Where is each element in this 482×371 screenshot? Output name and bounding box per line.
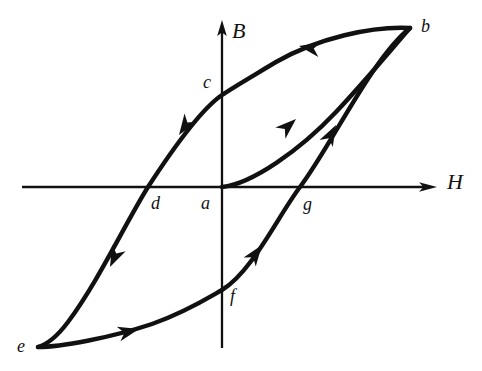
point-label-f: f xyxy=(230,287,235,305)
point-label-e: e xyxy=(17,337,25,355)
hysteresis-plot-svg xyxy=(0,0,482,371)
h-axis-label: H xyxy=(447,171,463,193)
point-label-g: g xyxy=(303,195,312,213)
arrowhead-initial-curve-icon xyxy=(275,113,301,138)
point-label-d: d xyxy=(151,194,160,212)
point-label-c: c xyxy=(203,73,211,91)
point-label-a: a xyxy=(201,194,210,212)
hysteresis-figure: B H a b c d e f g xyxy=(0,0,482,371)
point-label-b: b xyxy=(421,17,430,35)
b-axis-label: B xyxy=(232,20,245,42)
